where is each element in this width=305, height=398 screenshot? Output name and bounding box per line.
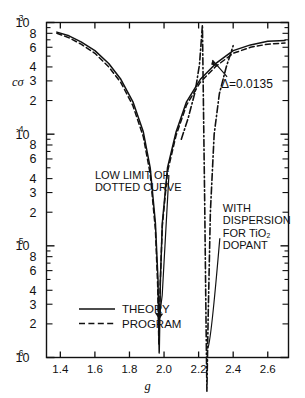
y-minor-label: 2 — [30, 94, 37, 108]
log-log-plot: 1.41.61.82.02.22.42.6g10-38643210-486432… — [0, 0, 305, 398]
svg-text:-3: -3 — [16, 13, 24, 23]
y-minor-label: 6 — [30, 41, 37, 55]
annotation-dispersion-line: FOR TiO₂ — [223, 227, 271, 239]
x-axis-label: g — [144, 379, 150, 393]
legend: THEORYPROGRAM — [79, 303, 181, 330]
annotation-dispersion: WITHDISPERSIONFOR TiO₂DOPANT — [208, 202, 291, 348]
annotation-dispersion-line: WITH — [223, 202, 251, 214]
y-minor-label: 4 — [30, 172, 37, 186]
y-decade-label: 10-4 — [16, 124, 30, 142]
annotation-dispersion-line: DOPANT — [223, 239, 268, 251]
x-tick-label: 1.8 — [121, 363, 137, 375]
x-tick-label: 2.2 — [191, 363, 207, 375]
x-tick-label: 2.4 — [225, 363, 242, 375]
annotation-low-limit: LOW LIMIT OFDOTTED CURVE — [95, 169, 182, 320]
x-tick-label: 1.4 — [52, 363, 69, 375]
annotation-low-limit-line: LOW LIMIT OF — [95, 169, 170, 181]
y-minor-label: 2 — [30, 317, 37, 331]
figure-container: 1.41.61.82.02.22.42.6g10-38643210-486432… — [0, 0, 305, 398]
svg-text:cσ: cσ — [12, 75, 25, 89]
y-minor-label: 4 — [30, 60, 37, 74]
x-tick-label: 2.0 — [156, 363, 172, 375]
y-minor-label: 3 — [30, 74, 37, 88]
annotation-delta: Δ=0.0135 — [221, 77, 273, 91]
y-minor-label: 8 — [30, 27, 37, 41]
y-minor-label: 4 — [30, 284, 37, 298]
svg-text:-6: -6 — [16, 348, 24, 358]
legend-label: THEORY — [122, 303, 170, 315]
y-minor-label: 6 — [30, 264, 37, 278]
y-decade-label: 10-6 — [16, 348, 30, 366]
x-tick-label: 2.6 — [260, 363, 276, 375]
y-decade-label: 10-5 — [16, 236, 30, 254]
y-decade-label: 10-3 — [16, 13, 30, 31]
y-minor-label: 2 — [30, 206, 37, 220]
y-minor-label: 6 — [30, 152, 37, 166]
y-minor-label: 3 — [30, 298, 37, 312]
y-minor-label: 8 — [30, 138, 37, 152]
y-minor-label: 3 — [30, 186, 37, 200]
annotation-dispersion-line: DISPERSION — [223, 214, 291, 226]
y-axis-label: cσ — [12, 75, 25, 89]
svg-text:-5: -5 — [16, 236, 24, 246]
legend-label: PROGRAM — [122, 318, 181, 330]
x-tick-label: 1.6 — [87, 363, 103, 375]
y-minor-label: 8 — [30, 250, 37, 264]
svg-text:-4: -4 — [16, 124, 24, 134]
